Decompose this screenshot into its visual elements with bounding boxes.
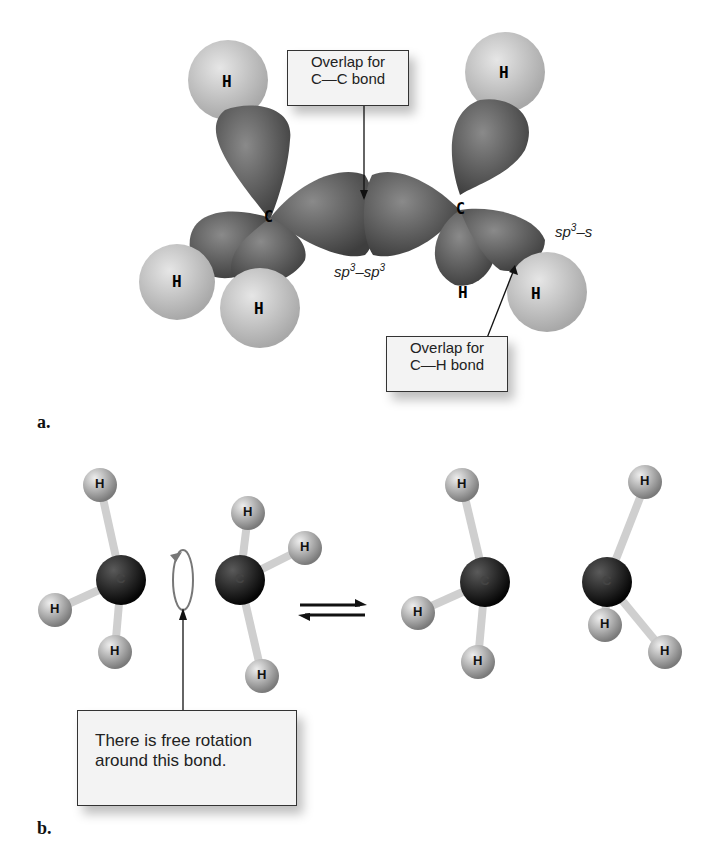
callout-line: There is free rotation [95,731,296,751]
panel-label-a: a. [37,412,51,433]
atom-label-h: H [254,299,264,318]
atom-label-h: H [222,72,232,91]
orbital-label-sp3-sp3: sp3–sp3 [334,262,385,280]
atom-label-h: H [458,283,468,302]
callout-line: C—H bond [387,356,507,373]
atom-label-h: H [640,473,649,488]
panel-label-b: b. [37,818,52,839]
atom-label-h: H [660,643,669,658]
atom-label-c: C [480,573,489,588]
callout-line: Overlap for [288,53,408,70]
callout-line: around this bond. [95,751,296,771]
atom-label-h: H [499,63,509,82]
atom-label-h: H [243,504,252,519]
atom-label-h: H [50,601,59,616]
atom-label-h: H [531,284,541,303]
atom-label-h: H [95,476,104,491]
atom-label-c: C [602,573,611,588]
callout-cc-overlap: Overlap for C—C bond [287,50,409,106]
atom-label-h: H [300,539,309,554]
atom-label-c: C [264,208,273,226]
atom-label-h: H [600,616,609,631]
atom-label-h: H [172,272,182,291]
atom-label-h: H [257,667,266,682]
atom-label-c: C [116,571,125,586]
callout-line: C—C bond [288,70,408,87]
orbital-label-sp3-s: sp3–s [555,222,592,240]
ball-and-stick-left [38,468,322,710]
callout-ch-overlap: Overlap for C—H bond [386,336,508,392]
atom-label-h: H [110,643,119,658]
atom-label-h: H [473,653,482,668]
atom-label-h: H [457,476,466,491]
callout-free-rotation: There is free rotation around this bond. [77,710,297,806]
equilibrium-arrows-icon [298,599,367,621]
atom-label-h: H [413,604,422,619]
hydrogen-sphere [507,252,587,332]
ball-and-stick-right [401,465,682,679]
atom-label-c: C [235,571,244,586]
callout-line: Overlap for [387,339,507,356]
atom-label-c: C [456,200,465,218]
